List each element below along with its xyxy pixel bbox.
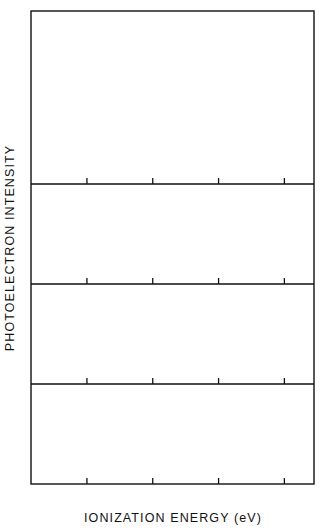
y-axis-label: PHOTOELECTRON INTENSITY	[3, 145, 17, 351]
panel-dividers	[31, 184, 314, 384]
x-axis-ticks	[87, 178, 284, 484]
photoelectron-spectra-figure: IONIZATION ENERGY (eV) PHOTOELECTRON INT…	[0, 0, 328, 532]
x-axis-label: IONIZATION ENERGY (eV)	[84, 511, 262, 525]
plot-frames	[31, 11, 314, 484]
spectra-plot: IONIZATION ENERGY (eV) PHOTOELECTRON INT…	[0, 0, 328, 532]
